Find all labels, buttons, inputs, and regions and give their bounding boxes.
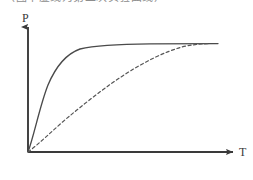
plot-canvas: P T bbox=[0, 0, 253, 180]
y-axis-label: P bbox=[22, 11, 29, 25]
x-axis-label: T bbox=[239, 145, 247, 159]
dashed-curve-path bbox=[28, 44, 210, 152]
figure-container: （图中虚线为第二次实验曲线） P T bbox=[0, 0, 253, 180]
solid-curve-path bbox=[28, 44, 218, 152]
